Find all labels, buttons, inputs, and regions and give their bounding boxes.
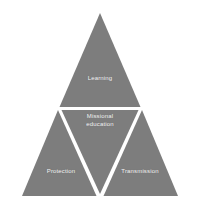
triangle-diagram: Learning Missional education Protection …	[0, 0, 202, 210]
triangle-diagram-svg	[0, 0, 202, 210]
triangle-segments	[22, 13, 178, 196]
segment-top-shape[interactable]	[60, 13, 141, 107]
